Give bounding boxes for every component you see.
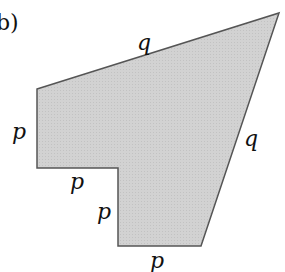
label-notch-vertical: p — [97, 199, 111, 224]
label-notch-horizontal: p — [70, 169, 84, 194]
shaded-polygon — [37, 13, 279, 246]
label-bottom-edge: p — [150, 248, 164, 272]
composite-shape-diagram: b) q p p p p q — [0, 0, 285, 272]
label-top-edge: q — [137, 30, 151, 55]
label-left-edge: p — [12, 119, 26, 144]
label-right-edge: q — [244, 126, 258, 151]
part-label: b) — [0, 10, 19, 35]
